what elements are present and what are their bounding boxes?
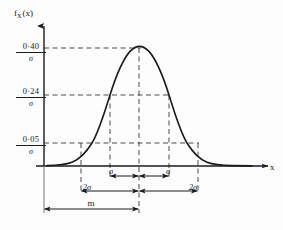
- gaussian-pdf-figure: fX (x) 0·40 σ 0·24 σ 0·05 σ x σ σ 2σ 2σ …: [0, 0, 283, 230]
- y-tick-005-denominator: σ: [16, 146, 46, 157]
- x-axis-label: x: [270, 163, 275, 172]
- y-tick-label-024: 0·24 σ: [16, 86, 46, 109]
- sigma-left-label: σ: [101, 167, 121, 176]
- plot-canvas: [0, 0, 283, 230]
- y-tick-040-denominator: σ: [16, 53, 46, 64]
- gaussian-curve: [47, 46, 252, 165]
- sigma-right-label: σ: [158, 167, 178, 176]
- y-tick-005-numerator: 0·05: [16, 134, 46, 146]
- y-axis-label-subscript: X: [17, 12, 22, 19]
- y-axis-label: fX (x): [14, 9, 33, 20]
- level-guide-lines: [44, 48, 199, 143]
- two-sigma-right-label: 2σ: [181, 183, 205, 192]
- y-tick-label-005: 0·05 σ: [16, 134, 46, 157]
- y-tick-label-040: 0·40 σ: [16, 41, 46, 64]
- two-sigma-left-label: 2σ: [75, 183, 99, 192]
- mean-label: m: [81, 199, 101, 208]
- y-tick-024-numerator: 0·24: [16, 86, 46, 98]
- y-tick-040-numerator: 0·40: [16, 41, 46, 53]
- y-tick-024-denominator: σ: [16, 98, 46, 109]
- y-axis-label-arg: (x): [22, 8, 33, 18]
